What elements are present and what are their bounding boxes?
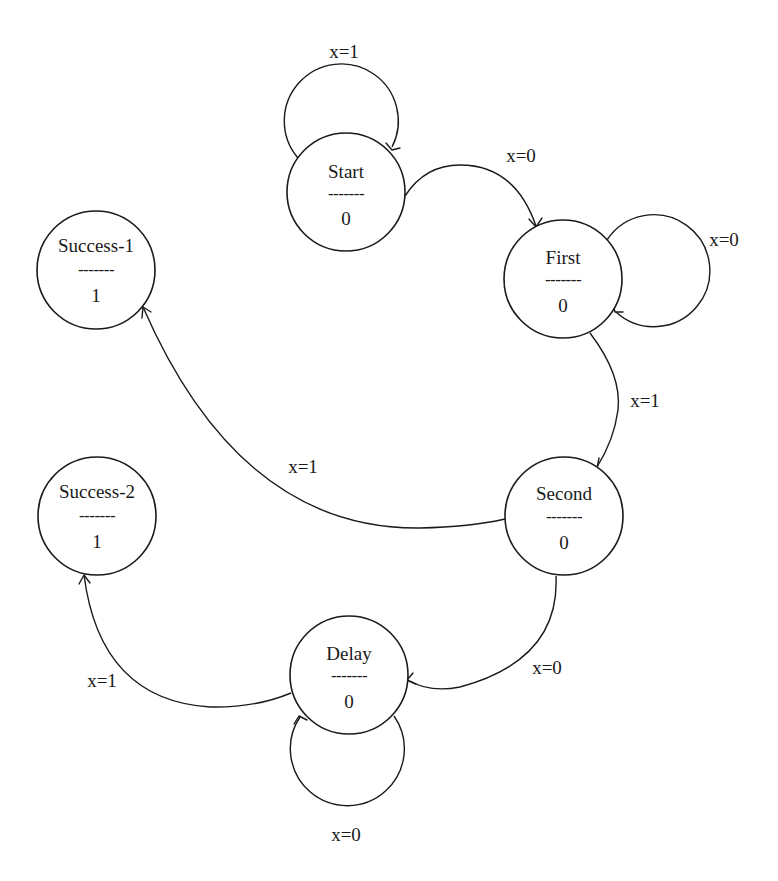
edge-label-first-self: x=0 bbox=[709, 229, 739, 250]
first-self-loop-path bbox=[607, 215, 710, 327]
state-separator: ------- bbox=[328, 184, 365, 203]
state-separator: ------- bbox=[79, 506, 116, 525]
transition-first-self: x=0 bbox=[607, 215, 739, 327]
state-output: 0 bbox=[344, 691, 354, 712]
state-separator: ------- bbox=[331, 666, 368, 685]
edge-label-delay-self: x=0 bbox=[331, 824, 361, 845]
state-first: First ------- 0 bbox=[504, 220, 622, 338]
state-diagram: x=1 x=0 x=0 x=1 x=1 x=0 x=0 x=1 bbox=[0, 0, 778, 881]
transition-delay-self: x=0 bbox=[290, 716, 404, 845]
edge-label-start-self: x=1 bbox=[329, 41, 359, 62]
state-output: 0 bbox=[341, 208, 351, 229]
state-name: Success-2 bbox=[59, 481, 135, 502]
transition-second-to-success1: x=1 bbox=[142, 307, 505, 528]
transition-start-to-first: x=0 bbox=[405, 145, 542, 227]
state-name: Delay bbox=[326, 643, 372, 664]
state-success-1: Success-1 ------- 1 bbox=[37, 211, 155, 329]
edge-label-second-to-delay: x=0 bbox=[532, 657, 562, 678]
first-to-second-path bbox=[590, 333, 618, 467]
state-name: Start bbox=[328, 161, 365, 182]
edge-label-second-to-success1: x=1 bbox=[288, 456, 318, 477]
state-name: Success-1 bbox=[58, 235, 134, 256]
transition-delay-to-success2: x=1 bbox=[79, 575, 291, 707]
state-delay: Delay ------- 0 bbox=[290, 616, 408, 734]
edge-label-delay-to-success2: x=1 bbox=[87, 670, 117, 691]
second-to-success1-path bbox=[143, 307, 505, 528]
state-output: 0 bbox=[558, 295, 568, 316]
state-separator: ------- bbox=[546, 507, 583, 526]
state-start: Start ------- 0 bbox=[287, 133, 405, 251]
state-name: Second bbox=[536, 483, 592, 504]
transition-first-to-second: x=1 bbox=[588, 333, 660, 468]
state-output: 1 bbox=[91, 285, 101, 306]
edge-label-first-to-second: x=1 bbox=[630, 390, 660, 411]
start-to-first-path bbox=[405, 165, 536, 226]
state-second: Second ------- 0 bbox=[505, 457, 623, 575]
state-separator: ------- bbox=[545, 270, 582, 289]
transition-second-to-delay: x=0 bbox=[407, 576, 562, 689]
edge-label-start-to-first: x=0 bbox=[506, 145, 536, 166]
state-separator: ------- bbox=[78, 260, 115, 279]
state-success-2: Success-2 ------- 1 bbox=[38, 457, 156, 575]
state-output: 0 bbox=[559, 532, 569, 553]
state-name: First bbox=[546, 247, 582, 268]
state-output: 1 bbox=[92, 531, 102, 552]
